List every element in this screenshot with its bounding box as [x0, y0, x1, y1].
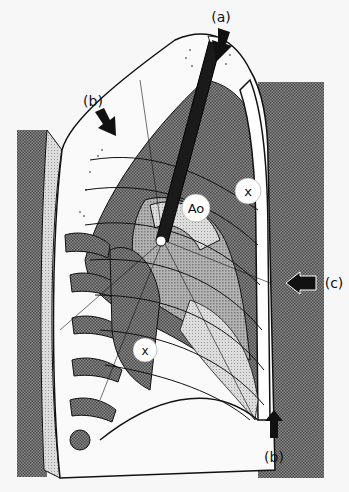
thorax-diagram: x Ao x (a) (b) (c) (b)	[0, 0, 349, 492]
label-b-bottom: (b)	[264, 449, 284, 465]
label-a: (a)	[211, 9, 231, 25]
x-lower-marker: x	[133, 338, 157, 362]
x-lower-label: x	[141, 344, 148, 358]
x-upper-label: x	[244, 184, 252, 199]
label-b-top: (b)	[83, 93, 103, 109]
ao-label: Ao	[188, 201, 205, 216]
label-c: (c)	[325, 275, 344, 291]
ao-marker: Ao	[182, 194, 210, 222]
x-upper-marker: x	[235, 178, 261, 204]
